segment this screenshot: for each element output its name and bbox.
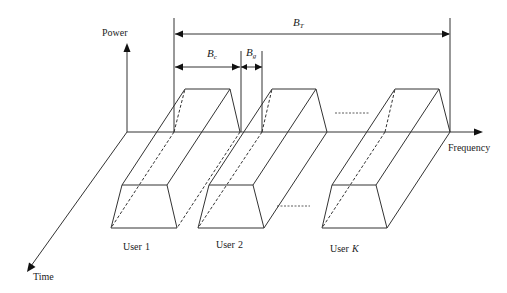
depth-edge-bottom-right <box>387 132 450 228</box>
user-1-prefix: User <box>123 241 143 252</box>
channel-bandwidth-arrowhead-right <box>232 64 240 71</box>
back-face <box>185 89 240 132</box>
depth-edge-top-left <box>122 89 185 185</box>
back-face <box>395 89 450 132</box>
channel-bandwidth-arrowhead-left <box>175 64 183 71</box>
user-2-id: 2 <box>238 239 243 250</box>
power-axis-label: Power <box>102 27 128 38</box>
channel-bandwidth-label: Bc <box>207 47 218 61</box>
time-axis-label: Time <box>33 271 54 282</box>
user-1-id: 1 <box>145 241 150 252</box>
back-face-hidden-edge <box>174 89 185 132</box>
user-k-channel-box <box>322 89 450 228</box>
guard-bandwidth-arrowhead-right <box>255 64 262 71</box>
time-axis <box>31 132 127 266</box>
guard-bandwidth-label: Bg <box>246 46 257 60</box>
front-face <box>198 185 264 228</box>
user-k-prefix: User <box>330 243 350 254</box>
total-bandwidth-arrowhead-left <box>175 31 183 38</box>
depth-edge-hidden <box>111 132 174 228</box>
dimension-lines <box>174 18 450 132</box>
guard-bandwidth-arrowhead-left <box>241 64 247 70</box>
front-face <box>322 185 387 228</box>
frequency-axis-label: Frequency <box>448 142 490 153</box>
user-1-label: User1 <box>123 241 150 252</box>
total-bandwidth-label: BT <box>293 16 305 30</box>
depth-edge-top-right <box>167 89 230 185</box>
back-face-hidden-edge <box>385 89 395 132</box>
depth-edge-hidden <box>322 132 385 228</box>
front-face <box>111 185 177 228</box>
user-k-label: UserK <box>330 243 360 254</box>
power-axis-arrowhead <box>124 43 131 52</box>
back-face <box>272 89 327 132</box>
total-bandwidth-arrowhead-right <box>442 31 450 38</box>
total-bandwidth-subscript: T <box>300 22 305 30</box>
back-face-hidden-edge <box>262 89 272 132</box>
channel-bandwidth-subscript: c <box>214 53 218 61</box>
frequency-axis-arrowhead <box>474 129 483 136</box>
user-2-prefix: User <box>216 239 236 250</box>
user-k-id: K <box>351 243 360 254</box>
frequency-time-diagram: Power Frequency Time BT Bc Bg <box>0 0 507 293</box>
guard-bandwidth-subscript: g <box>253 52 257 60</box>
depth-edge-bottom-right <box>264 132 327 228</box>
axes <box>27 43 483 272</box>
user-1-channel-box <box>111 89 240 228</box>
user-2-label: User2 <box>216 239 243 250</box>
